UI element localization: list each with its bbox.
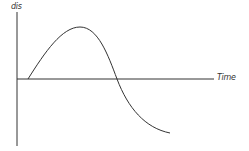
y-axis-label: dis — [11, 2, 22, 11]
displacement-curve — [28, 27, 170, 133]
displacement-time-chart — [0, 0, 249, 151]
x-axis-label: Time — [217, 73, 236, 82]
